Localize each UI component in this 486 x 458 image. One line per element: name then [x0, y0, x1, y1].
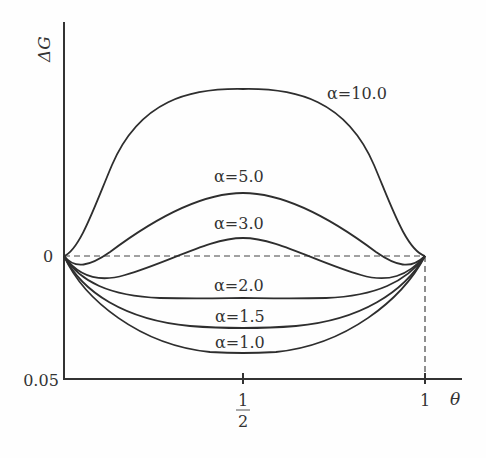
chart: ΔG θ 0 0.05 1 2 1 α=10.0 α=5.0 α=3.0 α=2…	[0, 0, 486, 458]
series-label-alpha-5: α=5.0	[214, 167, 264, 186]
x-tick-label-half-denominator: 2	[238, 412, 248, 431]
x-axis-label: θ	[450, 389, 460, 409]
y-tick-label-bottom: 0.05	[23, 371, 59, 390]
y-tick-label-zero: 0	[43, 247, 53, 266]
y-axis-label: ΔG	[34, 36, 54, 63]
series-label-alpha-1-5: α=1.5	[215, 307, 265, 326]
series-label-alpha-10: α=10.0	[327, 84, 387, 103]
series-label-alpha-2: α=2.0	[214, 276, 264, 295]
series-label-alpha-1: α=1.0	[215, 333, 265, 352]
x-tick-label-half-numerator: 1	[238, 391, 248, 410]
series-label-alpha-3: α=3.0	[214, 214, 264, 233]
x-tick-label-one: 1	[420, 391, 430, 410]
curve-alpha-3	[64, 238, 425, 278]
